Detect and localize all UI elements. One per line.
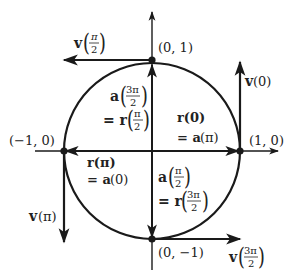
label-r0-equals-api: r(0) = a (π) — [177, 110, 219, 145]
svg-text:3π: 3π — [126, 84, 139, 95]
svg-text:2: 2 — [91, 44, 97, 55]
svg-text:): ) — [99, 28, 106, 57]
svg-text:π: π — [90, 31, 98, 42]
svg-text:): ) — [258, 242, 265, 271]
label-v-pi-over-2: v ( π 2 ) — [73, 28, 106, 57]
label-rpi-equals-a0: r(π) = a (0) — [87, 155, 128, 187]
svg-text:(π): (π) — [38, 209, 57, 224]
point-right — [236, 147, 243, 154]
svg-text:(: ( — [168, 162, 175, 191]
svg-text:r(0): r(0) — [177, 110, 205, 125]
svg-text:3π: 3π — [244, 245, 257, 256]
label-point-top: (0, 1) — [158, 40, 193, 55]
svg-text:v: v — [28, 208, 38, 224]
label-point-bottom: (0, −1) — [158, 245, 204, 260]
svg-text:2: 2 — [134, 121, 140, 132]
svg-text:(0): (0) — [253, 74, 271, 89]
svg-text:3π: 3π — [187, 189, 200, 200]
label-api2-equals-r3pi2: a ( π 2 ) = r ( 3π 2 ) — [158, 162, 209, 215]
label-v-0: v (0) — [244, 73, 271, 89]
svg-text:= a: = a — [87, 172, 111, 187]
svg-text:r(π): r(π) — [87, 155, 116, 170]
point-left — [60, 147, 67, 154]
svg-text:): ) — [143, 105, 150, 134]
point-bottom — [148, 235, 155, 242]
svg-text:π: π — [134, 108, 141, 119]
label-v-3pi-over-2: v ( 3π 2 ) — [228, 242, 265, 271]
svg-text:v: v — [228, 249, 238, 265]
point-top — [148, 56, 155, 63]
svg-text:(: ( — [127, 105, 134, 134]
svg-text:= r: = r — [103, 112, 128, 128]
svg-text:π: π — [175, 165, 182, 176]
label-v-pi: v (π) — [28, 208, 57, 224]
svg-text:a: a — [110, 88, 119, 104]
label-a3pi2-equals-rpi2: a ( 3π 2 ) = r ( π 2 ) — [103, 81, 150, 134]
svg-text:v: v — [73, 35, 83, 51]
label-point-right: (1, 0) — [249, 133, 284, 148]
svg-text:2: 2 — [191, 202, 197, 213]
svg-text:= r: = r — [158, 193, 183, 209]
svg-text:2: 2 — [248, 258, 254, 269]
svg-text:= a: = a — [177, 130, 201, 145]
svg-text:a: a — [158, 169, 167, 185]
svg-text:): ) — [202, 186, 209, 215]
svg-text:(0): (0) — [110, 172, 128, 187]
svg-text:(π): (π) — [200, 130, 219, 145]
label-point-left: (−1, 0) — [9, 133, 55, 148]
svg-text:(: ( — [83, 28, 90, 57]
unit-circle-diagram: (0, 1) (1, 0) (−1, 0) (0, −1) v ( π 2 ) … — [0, 0, 285, 271]
